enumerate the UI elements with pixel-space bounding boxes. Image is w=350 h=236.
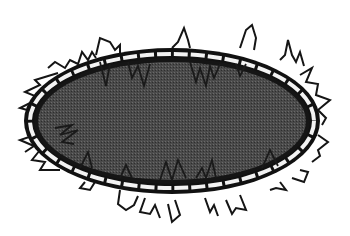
illustration-canvas (0, 0, 350, 236)
spiky-ellipse-graphic (0, 0, 350, 236)
gray-fill (38, 62, 306, 180)
